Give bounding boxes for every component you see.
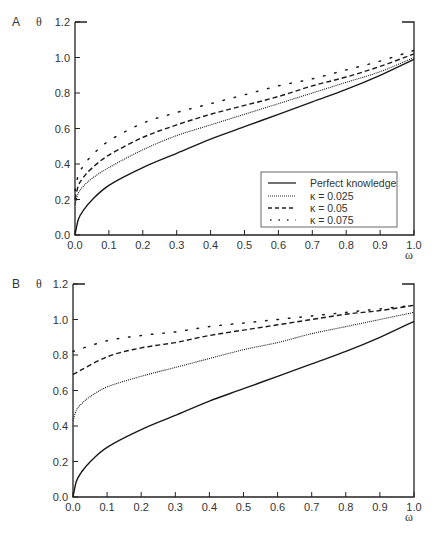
legend-item-k005: κ = 0.05 [310, 202, 348, 214]
x-tick-label: 1.0 [406, 239, 421, 251]
panel-a-y-axis-label: θ [36, 15, 42, 29]
y-tick-label: 0.8 [55, 87, 70, 99]
y-tick-label: 0.4 [53, 420, 68, 432]
y-tick-label: 0.6 [53, 385, 68, 397]
x-tick-label: 0.6 [271, 239, 286, 251]
series-line-dotted [73, 312, 414, 420]
y-tick-label: 1.0 [55, 52, 70, 64]
legend: Perfect knowledge κ = 0.025 κ = 0.05 κ =… [261, 172, 397, 227]
panel-b-curves [73, 305, 414, 497]
x-tick-label: 0.6 [270, 501, 285, 513]
panel-a-chart: A θ ω 0.00.10.20.30.40.50.60.70.80.91.00… [12, 15, 422, 262]
series-line-sparse-dots [75, 50, 414, 190]
y-tick-label: 0.8 [53, 349, 68, 361]
y-tick-label: 0.0 [55, 229, 70, 241]
axis-frame [73, 284, 414, 497]
x-tick-label: 1.0 [406, 501, 421, 513]
figure: A θ ω 0.00.10.20.30.40.50.60.70.80.91.00… [0, 0, 434, 537]
series-line-dashed [73, 305, 414, 374]
x-tick-label: 0.1 [101, 239, 116, 251]
x-tick-label: 0.2 [134, 501, 149, 513]
legend-item-perfect: Perfect knowledge [310, 177, 397, 189]
panel-b-chart: B θ ω 0.00.10.20.30.40.50.60.70.80.91.00… [12, 277, 422, 524]
x-tick-label: 0.4 [202, 501, 217, 513]
x-tick-label: 0.8 [339, 239, 354, 251]
panel-b-y-axis-label: θ [36, 277, 42, 291]
y-tick-label: 1.2 [53, 278, 68, 290]
x-tick-label: 0.5 [236, 501, 251, 513]
x-tick-label: 0.2 [135, 239, 150, 251]
y-tick-label: 1.0 [53, 314, 68, 326]
legend-item-k0025: κ = 0.025 [310, 190, 354, 202]
x-tick-label: 0.8 [338, 501, 353, 513]
y-tick-label: 1.2 [55, 16, 70, 28]
x-tick-label: 0.3 [168, 501, 183, 513]
x-tick-label: 0.9 [372, 501, 387, 513]
x-tick-label: 0.7 [304, 501, 319, 513]
panel-b-ticks: 0.00.10.20.30.40.50.60.70.80.91.00.00.20… [53, 278, 422, 513]
y-tick-label: 0.4 [55, 158, 70, 170]
x-tick-label: 0.4 [203, 239, 218, 251]
y-tick-label: 0.2 [55, 194, 70, 206]
x-tick-label: 0.3 [169, 239, 184, 251]
panel-b-axes [73, 284, 414, 497]
x-tick-label: 0.9 [372, 239, 387, 251]
legend-item-k0075: κ = 0.075 [310, 214, 354, 226]
y-tick-label: 0.0 [53, 491, 68, 503]
series-line-solid [73, 321, 414, 497]
x-tick-label: 0.5 [237, 239, 252, 251]
x-tick-label: 0.1 [99, 501, 114, 513]
y-tick-label: 0.2 [53, 456, 68, 468]
panel-a-label: A [12, 15, 20, 29]
y-tick-label: 0.6 [55, 123, 70, 135]
panel-b-label: B [12, 277, 20, 291]
x-tick-label: 0.7 [305, 239, 320, 251]
